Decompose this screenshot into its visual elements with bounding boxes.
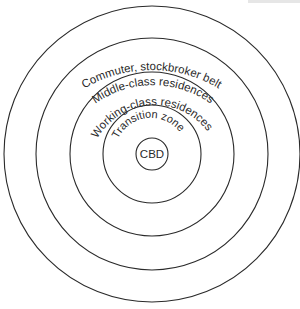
label-cbd: CBD xyxy=(140,148,164,160)
concentric-zone-diagram: Commuter, stockbroker belt Middle-class … xyxy=(0,0,300,309)
